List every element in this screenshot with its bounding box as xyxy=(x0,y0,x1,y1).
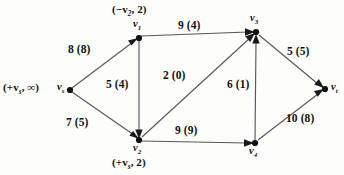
node-v1[interactable] xyxy=(136,35,142,41)
graph-canvas xyxy=(0,0,344,175)
edge-v1-v2 xyxy=(135,40,142,139)
node-v3[interactable] xyxy=(253,29,259,35)
edge-label-v1-v2: 5 (4) xyxy=(106,79,129,91)
edge-v4-v3 xyxy=(252,34,259,140)
node-label-v1-sub: 1 xyxy=(138,24,142,32)
edge-label-v4-v3: 6 (1) xyxy=(227,79,250,91)
edge-v2-v4 xyxy=(141,139,254,146)
node-annotation-v2-head: (+v xyxy=(112,156,128,168)
node-vt[interactable] xyxy=(322,86,328,92)
node-label-v3: v3 xyxy=(250,13,258,26)
node-annotation-v1: (−v2, 2) xyxy=(112,4,147,18)
edge-label-v3-vt: 5 (5) xyxy=(287,46,310,58)
edge-label-vs-v2: 7 (5) xyxy=(66,117,89,129)
node-label-vt: vt xyxy=(331,82,338,95)
edge-label-v4-vt: 10 (8) xyxy=(286,113,314,125)
node-label-v2-sub: 2 xyxy=(138,148,142,156)
edge-label-v2-v4: 9 (9) xyxy=(175,125,198,137)
network-flow-figure: 8 (8) 7 (5) 9 (4) 5 (4) 2 (0) 9 (9) 6 (1… xyxy=(0,0,344,175)
node-label-vs-sub: s xyxy=(62,87,65,95)
node-annotation-vs-tail: , ∞) xyxy=(22,81,39,93)
node-label-v1: v1 xyxy=(133,19,141,32)
node-annotation-vs-head: (+v xyxy=(3,81,19,93)
node-label-v4: v4 xyxy=(249,146,257,159)
node-annotation-v2-tail: , 2) xyxy=(131,156,146,168)
node-vs[interactable] xyxy=(67,87,73,93)
edge-label-v1-v3: 9 (4) xyxy=(178,20,201,32)
node-label-vs: vs xyxy=(57,82,65,95)
edge-label-v2-v3: 2 (0) xyxy=(163,70,186,82)
node-annotation-v2: (+vs, 2) xyxy=(112,157,146,171)
edge-label-vs-v1: 8 (8) xyxy=(68,44,91,56)
node-label-v2: v2 xyxy=(133,143,141,156)
node-annotation-vs: (+vs, ∞) xyxy=(3,82,39,96)
edge-v3-vt xyxy=(259,35,324,88)
node-annotation-v1-head: (−v xyxy=(112,3,128,15)
node-label-vt-sub: t xyxy=(336,87,338,95)
node-label-v3-sub: 3 xyxy=(255,18,259,26)
node-annotation-v1-tail: , 2) xyxy=(131,3,146,15)
node-label-v4-sub: 4 xyxy=(254,151,258,159)
